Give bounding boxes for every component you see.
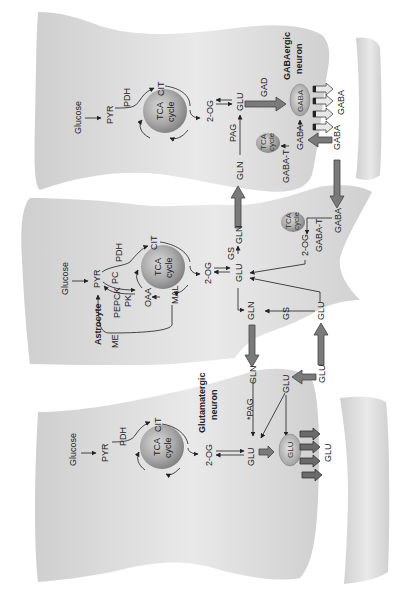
tca-label-2: cycle	[164, 257, 174, 278]
glucose-label: Glucose	[73, 101, 83, 134]
gaba-t-label: GABA-T	[314, 218, 324, 252]
tca-label: TCA	[152, 438, 162, 456]
astrocyte-title: Astrocyte	[93, 303, 103, 345]
gaba-uptake-label: GABA	[332, 125, 342, 150]
gabaergic-synaptic-partner	[356, 37, 382, 179]
glutamatergic-title-2: neuron	[209, 390, 219, 421]
2og-label: 2-OG	[204, 444, 214, 466]
tca-cycle	[141, 245, 185, 289]
glutamatergic-synaptic-partner	[340, 397, 389, 584]
glu-uptake-label: GLU	[317, 364, 327, 383]
me-label: ME	[110, 335, 120, 349]
pdh-label: PDH	[122, 88, 132, 107]
2og-small-label: 2-OG	[300, 234, 310, 256]
gabaergic-title-2: neuron	[294, 44, 304, 75]
pyr-label: PYR	[100, 443, 110, 462]
mal-label: MAL	[170, 285, 180, 304]
glutamatergic-title: Glutamatergic	[197, 372, 207, 433]
pyr-label: PYR	[92, 269, 102, 288]
pag-label: *PAG	[245, 398, 255, 420]
gln-label: GLN	[248, 365, 258, 384]
pdh-label: PDH	[118, 427, 128, 446]
gs-top-label: GS	[226, 247, 236, 260]
glu-vesicle-label: GLU	[286, 441, 295, 458]
2og-label: 2-OG	[203, 262, 213, 284]
glu-label: GLU	[234, 263, 244, 282]
cit-label: CIT	[149, 235, 159, 250]
gaba-release-label: GABA	[336, 90, 346, 115]
oaa-label: OAA	[143, 288, 153, 307]
gln-bottom-label: GLN	[246, 301, 256, 320]
cit-label: CIT	[153, 417, 163, 432]
pepck-label: PEPCK	[112, 287, 122, 318]
gaba-t-label: GABA-T	[281, 149, 291, 183]
glutamate-gaba-glutamine-cycle-diagram: Glucose PYR PDH TCA cycle CIT 2-OG GLU G…	[0, 0, 420, 593]
gaba-vesicle-label: GABA	[296, 89, 305, 112]
2og-label: 2-OG	[205, 100, 215, 122]
gln-label: GLN	[235, 161, 245, 180]
glu-bottom-label: GLU	[316, 301, 326, 320]
pyr-label: PYR	[105, 105, 115, 124]
glu-release-label: GLU	[323, 443, 333, 462]
glucose-label: Glucose	[60, 262, 70, 295]
gs-bottom-label: GS	[281, 307, 291, 320]
pag-label: PAG	[228, 124, 238, 142]
glucose-label: Glucose	[68, 433, 78, 466]
pdh-label: PDH	[114, 243, 124, 262]
glu-uptake-arrow-to-astrocyte	[314, 323, 328, 365]
gabaergic-title: GABAergic	[282, 32, 292, 80]
tca-label-2: cycle	[163, 437, 173, 458]
tca-label: TCA	[155, 102, 165, 120]
tca-small-label-2: cycle	[292, 211, 301, 230]
gln-top-label: GLN	[234, 225, 244, 244]
pc-label: PC	[110, 271, 120, 284]
tca-small-label-2: cycle	[267, 132, 276, 151]
gad-label: GAD	[259, 77, 269, 97]
tca-label-2: cycle	[166, 101, 176, 122]
glu-reuptake-label: GLU	[281, 374, 291, 393]
glutamatergic-neuron-body	[35, 369, 319, 582]
gaba-label: GABA	[333, 208, 343, 233]
glu-label: GLU	[246, 447, 256, 466]
glu-label: GLU	[235, 92, 245, 111]
cit-label: CIT	[156, 81, 166, 96]
pk-label: PK	[123, 295, 133, 307]
tca-label: TCA	[153, 258, 163, 276]
